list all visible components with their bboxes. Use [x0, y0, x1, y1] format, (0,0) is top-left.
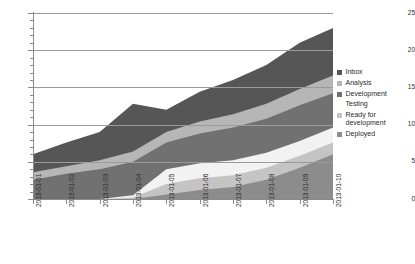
y-minor-tick	[30, 169, 33, 170]
y-minor-tick	[30, 95, 33, 96]
y-minor-tick	[30, 140, 33, 141]
x-axis-label-2013-01-02: 2013-01-02	[69, 174, 76, 207]
y-minor-tick	[30, 28, 33, 29]
y-axis-label-20: 20	[391, 47, 415, 54]
x-axis-label-2013-01-03: 2013-01-03	[103, 174, 110, 207]
y-tick-15	[28, 87, 33, 88]
x-tick-2013-01-10	[333, 199, 334, 204]
legend-item-ready-for-development[interactable]: Ready for development	[337, 111, 413, 128]
y-minor-tick	[30, 20, 33, 21]
y-minor-tick	[30, 154, 33, 155]
y-minor-tick	[30, 117, 33, 118]
y-minor-tick	[30, 80, 33, 81]
y-tick-10	[28, 125, 33, 126]
legend-swatch-icon	[337, 70, 342, 75]
legend-label: Analysis	[346, 79, 372, 87]
x-axis-label-2013-01-05: 2013-01-05	[169, 174, 176, 207]
y-minor-tick	[30, 43, 33, 44]
y-minor-tick	[30, 35, 33, 36]
legend-item-testing[interactable]: Testing	[337, 100, 413, 108]
legend-label: Testing	[346, 100, 368, 108]
x-axis-label-2013-01-10: 2013-01-10	[336, 174, 343, 207]
y-minor-tick	[30, 73, 33, 74]
y-axis-line	[33, 12, 34, 200]
gridline-10	[33, 125, 333, 126]
x-axis-label-2013-01-09: 2013-01-09	[303, 174, 310, 207]
y-minor-tick	[30, 110, 33, 111]
y-minor-tick	[30, 65, 33, 66]
y-axis-label-25: 25	[391, 10, 415, 17]
x-axis-label-2013-01-01: 2013-01-01	[36, 174, 43, 207]
y-minor-tick	[30, 102, 33, 103]
x-tick-2013-01-06	[200, 199, 201, 204]
legend-item-deployed[interactable]: Deployed	[337, 130, 413, 138]
y-axis-label-5: 5	[391, 158, 415, 165]
x-tick-2013-01-01	[33, 199, 34, 204]
legend-label: Inbox	[346, 68, 363, 76]
y-minor-tick	[30, 177, 33, 178]
gridline-20	[33, 50, 333, 51]
legend-swatch-icon	[337, 92, 342, 97]
legend-label: Deployed	[346, 130, 376, 138]
x-axis-label-2013-01-08: 2013-01-08	[269, 174, 276, 207]
legend-item-development[interactable]: Development	[337, 90, 413, 98]
chart-legend: InboxAnalysisDevelopmentTestingReady for…	[337, 68, 413, 141]
x-axis-label-2013-01-06: 2013-01-06	[203, 174, 210, 207]
y-minor-tick	[30, 58, 33, 59]
x-tick-2013-01-03	[100, 199, 101, 204]
legend-label: Ready for development	[346, 111, 414, 128]
y-tick-25	[28, 13, 33, 14]
y-axis-label-0: 0	[391, 196, 415, 203]
y-minor-tick	[30, 132, 33, 133]
gridline-15	[33, 87, 333, 88]
legend-swatch-icon	[337, 113, 342, 118]
y-tick-5	[28, 162, 33, 163]
gridline-25	[33, 13, 333, 14]
gridline-5	[33, 162, 333, 163]
legend-swatch-icon	[337, 102, 342, 107]
x-tick-2013-01-07	[233, 199, 234, 204]
x-axis-line	[33, 199, 333, 200]
legend-swatch-icon	[337, 81, 342, 86]
y-tick-20	[28, 50, 33, 51]
x-axis-label-2013-01-04: 2013-01-04	[136, 174, 143, 207]
y-minor-tick	[30, 192, 33, 193]
legend-item-analysis[interactable]: Analysis	[337, 79, 413, 87]
cumulative-flow-chart: 0510152025 2013-01-012013-01-022013-01-0…	[0, 0, 415, 264]
legend-swatch-icon	[337, 132, 342, 137]
legend-label: Development	[346, 90, 387, 98]
y-minor-tick	[30, 184, 33, 185]
x-tick-2013-01-09	[300, 199, 301, 204]
x-axis-label-2013-01-07: 2013-01-07	[236, 174, 243, 207]
y-minor-tick	[30, 147, 33, 148]
legend-item-inbox[interactable]: Inbox	[337, 68, 413, 76]
x-tick-2013-01-04	[133, 199, 134, 204]
